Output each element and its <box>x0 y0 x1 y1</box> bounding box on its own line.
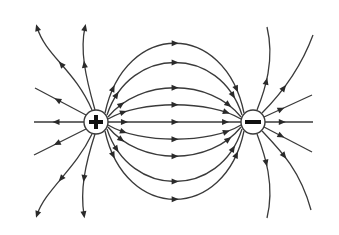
arrow-icon <box>80 211 87 219</box>
arrow-icon <box>109 151 117 160</box>
arrow-icon <box>121 119 128 125</box>
field-line-outgoing <box>83 27 95 110</box>
electric-dipole-diagram <box>0 0 339 235</box>
arrow-icon <box>172 40 179 46</box>
arrow-icon <box>33 23 41 31</box>
field-line-incoming <box>257 27 270 110</box>
field-line-incoming <box>264 127 312 152</box>
field-line-connecting <box>105 131 244 199</box>
arrow-icon <box>172 119 179 125</box>
arrow-icon <box>229 91 238 100</box>
arrow-icon <box>119 128 128 136</box>
arrow-icon <box>172 85 179 91</box>
arrow-icon <box>53 119 60 125</box>
arrow-icon <box>229 144 238 153</box>
arrow-icon <box>222 108 231 116</box>
arrow-icon <box>172 102 179 108</box>
arrow-icon <box>172 136 179 142</box>
arrow-icon <box>119 108 128 116</box>
minus-icon <box>245 120 261 124</box>
field-line-incoming <box>257 134 270 218</box>
arrow-icon <box>52 139 61 147</box>
arrow-icon <box>53 96 62 105</box>
field-line-incoming <box>264 95 312 117</box>
field-line-connecting <box>105 43 244 113</box>
field-line-outgoing <box>37 134 92 215</box>
arrow-icon <box>33 210 41 219</box>
arrow-icon <box>172 178 179 184</box>
field-line-outgoing <box>83 134 95 215</box>
arrow-icon <box>109 84 117 93</box>
arrow-icon <box>172 59 179 65</box>
arrow-icon <box>172 196 179 202</box>
field-line-connecting <box>108 88 241 117</box>
arrow-icon <box>277 105 286 113</box>
negative-charge <box>241 110 265 134</box>
field-line-connecting <box>108 105 241 119</box>
arrow-icon <box>279 119 286 125</box>
arrow-icon <box>222 128 231 136</box>
field-line-connecting <box>108 125 241 139</box>
arrow-icon <box>81 23 88 31</box>
field-line-connecting <box>108 127 241 156</box>
arrow-icon <box>277 132 286 141</box>
arrow-icon <box>172 153 179 159</box>
positive-charge <box>84 110 108 134</box>
arrow-icon <box>222 119 229 125</box>
